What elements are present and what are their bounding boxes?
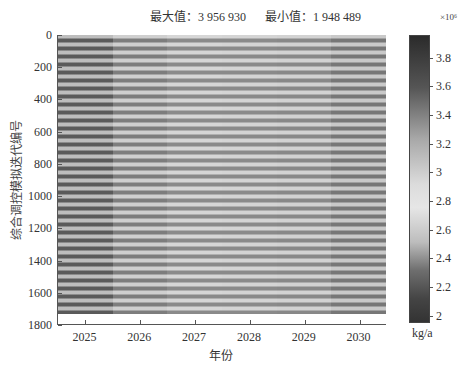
colorbar-tick-label: 3.2 (436, 136, 451, 151)
colorbar-tick-label: 3 (436, 165, 442, 180)
colorbar-tick (430, 58, 433, 59)
colorbar-tick (430, 230, 433, 231)
y-tick-label: 1200 (28, 221, 52, 236)
colorbar-tick (430, 258, 433, 259)
y-tick (58, 67, 62, 68)
colorbar-unit: kg/a (412, 326, 433, 341)
x-tick-label: 2026 (127, 330, 151, 345)
y-tick (58, 99, 62, 100)
x-tick-label: 2027 (182, 330, 206, 345)
x-axis-title: 年份 (209, 346, 233, 364)
heatmap-column-2026 (113, 35, 168, 314)
y-axis-title: 综合调控模拟迭代编号 (7, 120, 25, 240)
colorbar (409, 35, 430, 323)
x-tick (360, 320, 361, 324)
colorbar-tick (430, 287, 433, 288)
x-tick (305, 320, 306, 324)
y-tick (58, 35, 62, 36)
heatmap-grid (58, 35, 386, 314)
heatmap-plot-area (57, 35, 386, 325)
x-tick (85, 320, 86, 324)
y-tick (58, 196, 62, 197)
y-tick-label: 1600 (28, 285, 52, 300)
y-tick (58, 164, 62, 165)
colorbar-tick (430, 316, 433, 317)
min-annotation: 最小值：1 948 489 (265, 7, 361, 25)
y-tick (58, 293, 62, 294)
colorbar-tick (430, 172, 433, 173)
colorbar-tick (430, 86, 433, 87)
y-tick-label: 0 (46, 28, 52, 43)
y-tick-label: 200 (34, 60, 52, 75)
x-tick (250, 320, 251, 324)
x-tick-label: 2030 (347, 330, 371, 345)
y-tick (58, 228, 62, 229)
heatmap-column-2027 (167, 35, 222, 314)
x-tick-label: 2029 (292, 330, 316, 345)
colorbar-tick (430, 115, 433, 116)
y-tick (58, 261, 62, 262)
colorbar-tick (430, 144, 433, 145)
x-tick-label: 2025 (72, 330, 96, 345)
y-tick-label: 1400 (28, 253, 52, 268)
colorbar-exponent: ×10⁶ (440, 12, 457, 22)
colorbar-tick-label: 2 (436, 308, 442, 323)
colorbar-tick-label: 3.8 (436, 50, 451, 65)
heatmap-column-2030 (331, 35, 386, 314)
y-tick (58, 325, 62, 326)
heatmap-column-2029 (277, 35, 332, 314)
colorbar-tick-label: 2.6 (436, 222, 451, 237)
heatmap-column-2028 (222, 35, 277, 314)
heatmap-column-2025 (58, 35, 113, 314)
y-tick-label: 1800 (28, 318, 52, 333)
y-tick-label: 1000 (28, 189, 52, 204)
x-tick (140, 320, 141, 324)
colorbar-tick-label: 2.2 (436, 279, 451, 294)
colorbar-tick-label: 2.8 (436, 193, 451, 208)
y-tick-label: 600 (34, 124, 52, 139)
max-annotation: 最大值：3 956 930 (150, 7, 246, 25)
colorbar-tick (430, 201, 433, 202)
x-tick (195, 320, 196, 324)
y-tick-label: 400 (34, 92, 52, 107)
colorbar-tick-label: 3.6 (436, 79, 451, 94)
y-tick-label: 800 (34, 156, 52, 171)
y-tick (58, 132, 62, 133)
x-tick-label: 2028 (237, 330, 261, 345)
colorbar-tick-label: 3.4 (436, 107, 451, 122)
colorbar-tick-label: 2.4 (436, 251, 451, 266)
